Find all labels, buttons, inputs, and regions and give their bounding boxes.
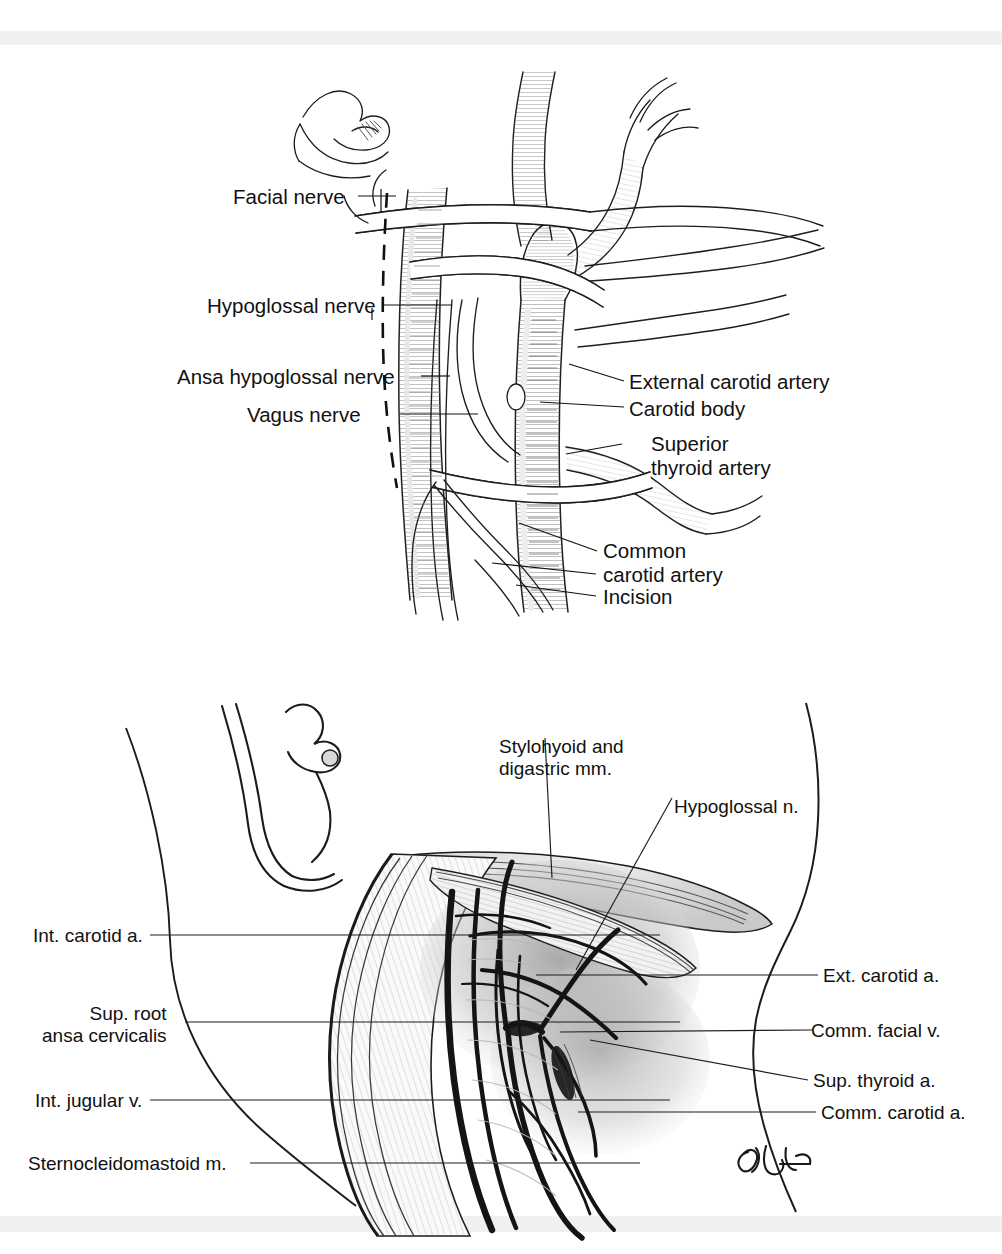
label-ansa-hypoglossal-nerve: Ansa hypoglossal nerve <box>177 365 395 389</box>
figure-top-drawing <box>0 0 1002 640</box>
label-vagus-nerve: Vagus nerve <box>247 403 361 427</box>
label-common-carotid-artery-line2: carotid artery <box>603 563 723 587</box>
label-ext-carotid-a: Ext. carotid a. <box>823 965 939 987</box>
label-comm-facial-v: Comm. facial v. <box>811 1020 941 1042</box>
label-stylohyoid-digastric: Stylohyoid and digastric mm. <box>499 736 624 780</box>
neck-profile-right <box>753 703 818 1212</box>
figure-top-carotid-bifurcation: Facial nerve Hypoglossal nerve Ansa hypo… <box>0 0 1002 640</box>
label-hypoglossal-n: Hypoglossal n. <box>674 796 799 818</box>
label-stylohyoid-digastric-line2: digastric mm. <box>499 758 624 780</box>
label-int-carotid-a: Int. carotid a. <box>33 925 143 947</box>
label-superior-thyroid-artery-line1: Superior <box>651 432 771 456</box>
label-comm-carotid-a: Comm. carotid a. <box>821 1102 966 1124</box>
figure-bottom-neck-dissection: Stylohyoid and digastric mm. Hypoglossal… <box>0 640 1002 1240</box>
label-common-carotid-artery: Common carotid artery <box>603 539 723 587</box>
label-external-carotid-artery: External carotid artery <box>629 370 830 394</box>
label-sternocleidomastoid-m: Sternocleidomastoid m. <box>28 1153 227 1175</box>
label-superior-thyroid-artery-line2: thyroid artery <box>651 456 771 480</box>
label-common-carotid-artery-line1: Common <box>603 539 723 563</box>
label-superior-thyroid-artery: Superior thyroid artery <box>651 432 771 480</box>
label-incision: Incision <box>603 585 673 609</box>
label-facial-nerve: Facial nerve <box>233 185 345 209</box>
illustration-page: Facial nerve Hypoglossal nerve Ansa hypo… <box>0 0 1002 1254</box>
label-carotid-body: Carotid body <box>629 397 745 421</box>
incision-dashed-line <box>383 193 397 488</box>
label-sup-thyroid-a: Sup. thyroid a. <box>813 1070 936 1092</box>
label-stylohyoid-digastric-line1: Stylohyoid and <box>499 736 624 758</box>
figure-bottom-drawing <box>0 640 1002 1240</box>
label-sup-root-ansa-cervicalis: Sup. root ansa cervicalis <box>42 1003 167 1047</box>
jaw-profile-left <box>126 728 356 1206</box>
label-int-jugular-v: Int. jugular v. <box>35 1090 142 1112</box>
label-sup-root-line1: Sup. root <box>42 1003 167 1025</box>
label-sup-root-line2: ansa cervicalis <box>42 1025 167 1047</box>
label-hypoglossal-nerve: Hypoglossal nerve <box>207 294 376 318</box>
